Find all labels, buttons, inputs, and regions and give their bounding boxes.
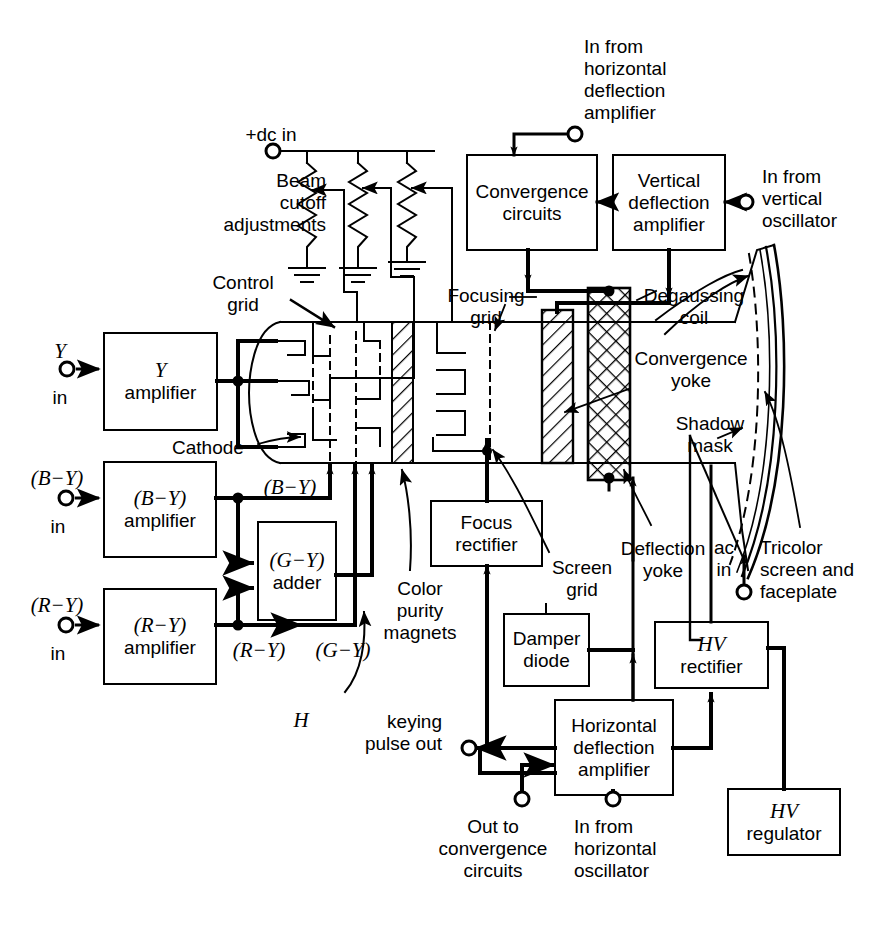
y-in-label: in [48, 387, 72, 409]
color-purity-magnets-label: Color purity magnets [375, 578, 465, 644]
b-minus-y-in-terminal-label: (B−Y) [14, 467, 100, 489]
r-minus-y-wire-label: (R−Y) [219, 639, 299, 661]
color-purity-pointer [402, 470, 411, 570]
screen-grid-element-3 [356, 428, 380, 446]
control-grid-element-1 [313, 322, 330, 356]
beam-cutoff-adjustments-label: Beam cutoff adjustments [154, 170, 326, 236]
out-to-convergence-circuits-label: Out to convergence circuits [431, 816, 555, 882]
hdefl-to-hv-rect [673, 694, 711, 748]
pot2-resistor [349, 163, 367, 255]
horizontal-deflection-in-wire [514, 134, 567, 155]
y-amplifier-box-text: Yamplifier [104, 333, 217, 430]
plus-dc-in-terminal[interactable] [266, 144, 280, 158]
plus-dc-in-label: +dc in [216, 124, 326, 146]
h-keying-pulse-out-terminal[interactable] [462, 741, 476, 755]
b-minus-y-in-label: in [46, 516, 70, 538]
in-from-vertical-oscillator-label: In from vertical oscillator [762, 166, 896, 232]
vertical-deflection-line1: Vertical [638, 170, 700, 191]
vertical-deflection-line3: amplifier [633, 214, 705, 235]
deflection-yoke-label: Deflection yoke [608, 538, 718, 582]
convergence-yoke-block [588, 288, 630, 480]
cathode-element-3 [276, 434, 305, 447]
cathode-element-1 [276, 341, 305, 355]
hv-regulator-box-text: HVregulator [728, 789, 840, 855]
vertical-deflection-amplifier-box-text: Verticaldeflectionamplifier [613, 155, 725, 250]
b-minus-y-amplifier-line1: (B−Y) [134, 486, 187, 510]
damper-diode-line2: diode [523, 650, 570, 671]
r-minus-y-in-terminal-label: (R−Y) [14, 594, 100, 616]
r-minus-y-amplifier-line2: amplifier [124, 637, 196, 658]
y-in-terminal[interactable] [60, 362, 74, 376]
focus-grid-tap-dot [482, 446, 492, 456]
hv-regulator-line1: HV [770, 799, 798, 823]
cathode-pointer [258, 437, 300, 444]
cathode-element-2 [276, 381, 309, 395]
convergence-circuits-line2: circuits [502, 203, 561, 224]
in-from-horizontal-deflection-terminal[interactable] [568, 127, 582, 141]
pot3-resistor [398, 163, 416, 255]
r-minus-y-to-adder [238, 588, 252, 625]
damper-diode-line1: Damper [513, 628, 581, 649]
b-minus-y-amplifier-line2: amplifier [124, 510, 196, 531]
y-in-terminal-label: Y [48, 340, 72, 362]
in-from-horizontal-deflection-amplifier-label: In from horizontal deflection amplifier [584, 36, 744, 124]
damper-diode-box-text: Damperdiode [504, 614, 589, 686]
convergence-yoke-label: Convergence yoke [629, 348, 753, 392]
screen-grid-element-2 [356, 382, 380, 399]
vertical-deflection-line2: deflection [628, 192, 709, 213]
hv-rect-to-regulator [768, 648, 784, 789]
g-minus-y-wire-label: (G−Y) [303, 639, 383, 661]
degaussing-coil-label: Degaussing coil [638, 285, 750, 329]
hv-regulator-line2: regulator [747, 823, 822, 844]
b-minus-y-amplifier-box-text: (B−Y)amplifier [104, 462, 216, 557]
out-to-convergence-circuits-terminal[interactable] [515, 792, 529, 806]
g-minus-y-adder-line2: adder [273, 572, 322, 593]
hv-rectifier-box-text: HVrectifier [655, 622, 768, 688]
in-from-vertical-oscillator-terminal[interactable] [739, 195, 753, 209]
hv-rectifier-line2: rectifier [680, 656, 742, 677]
control-grid-label: Control grid [200, 272, 286, 316]
y-amp-junction-dot [233, 376, 244, 387]
in-from-horizontal-oscillator-label: In from horizontal oscillator [574, 816, 704, 882]
horizontal-deflection-amplifier-box-text: Horizontaldeflectionamplifier [555, 700, 673, 795]
focus-rectifier-line1: Focus [461, 512, 513, 533]
g-minus-y-adder-line1: (G−Y) [269, 548, 324, 572]
b-minus-y-to-adder [238, 498, 252, 563]
tricolor-screen-faceplate-label: Tricolor screen and faceplate [760, 537, 896, 603]
focus-rectifier-grid-tap [433, 438, 487, 451]
horizontal-deflection-line2: deflection [573, 737, 654, 758]
y-amplifier-line1: Y [155, 358, 167, 382]
horizontal-deflection-line1: Horizontal [571, 715, 657, 736]
control-grid-element-3 [313, 413, 336, 440]
deflection-yoke-block [542, 310, 573, 463]
screen-grid-label: Screen grid [543, 557, 621, 601]
control-grid-element-2 [313, 378, 330, 400]
focusing-grid-element-2 [437, 370, 465, 394]
convergence-circuits-box-text: Convergencecircuits [467, 155, 597, 250]
b-minus-y-in-terminal[interactable] [59, 491, 73, 505]
convergence-to-yoke-wire [528, 250, 609, 291]
r-minus-y-in-label: in [46, 643, 70, 665]
diagram-canvas: Yamplifier (B−Y)amplifier (R−Y)amplifier… [0, 0, 896, 938]
focusing-grid-element-3 [437, 411, 465, 435]
r-minus-y-in-terminal[interactable] [59, 618, 73, 632]
r-minus-y-amplifier-line1: (R−Y) [134, 613, 187, 637]
y-amplifier-line2: amplifier [125, 382, 197, 403]
g-minus-y-adder-box-text: (G−Y)adder [258, 522, 336, 620]
cathode-label: Cathode [172, 437, 254, 459]
color-purity-magnet-block [392, 322, 413, 463]
focus-rectifier-line2: rectifier [455, 534, 517, 555]
ac-in-terminal[interactable] [737, 585, 751, 599]
horizontal-deflection-line3: amplifier [578, 759, 650, 780]
convergence-yoke-feed-dot [604, 286, 615, 297]
shadow-mask-label: Shadow mask [662, 413, 758, 457]
convergence-circuits-line1: Convergence [475, 181, 588, 202]
focus-rectifier-box-text: Focusrectifier [431, 501, 542, 566]
h-keying-pulse-out-label: keying pulse out [314, 711, 442, 755]
focusing-grid-label: Focusing grid [440, 285, 532, 329]
b-minus-y-wire-label: (B−Y) [250, 476, 330, 498]
hv-rectifier-line1: HV [697, 632, 725, 656]
r-minus-y-amplifier-box-text: (R−Y)amplifier [104, 589, 216, 684]
out-to-convergence-wire [522, 765, 550, 791]
deflection-yoke-pointer [624, 470, 651, 525]
